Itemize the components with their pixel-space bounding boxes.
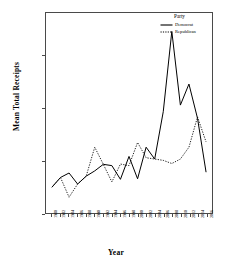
y-axis-title: Mean Total Receipts bbox=[12, 37, 21, 157]
x-tick-mark bbox=[181, 214, 182, 217]
chart-figure: Mean Total Receipts 0200,000400,000600,0… bbox=[0, 0, 232, 266]
x-tick-label: 2004 bbox=[157, 196, 162, 218]
x-tick-label: 1988 bbox=[87, 196, 92, 218]
legend-label-democrat: Democrat bbox=[175, 22, 193, 27]
x-tick-mark bbox=[207, 214, 208, 217]
x-tick-label: 2008 bbox=[174, 196, 179, 218]
plot-area bbox=[46, 13, 212, 213]
x-tick-label: 2014 bbox=[200, 196, 205, 218]
x-tick-label: 1990 bbox=[96, 196, 101, 218]
x-tick-mark bbox=[51, 214, 52, 217]
legend-key-solid-line bbox=[160, 22, 173, 28]
x-tick-label: 1986 bbox=[79, 196, 84, 218]
x-tick-mark bbox=[103, 214, 104, 217]
legend-item-republican: Republican bbox=[160, 28, 226, 35]
x-tick-label: 1998 bbox=[131, 196, 136, 218]
x-tick-label: 2010 bbox=[183, 196, 188, 218]
series-line-democrat bbox=[52, 31, 206, 187]
chart-legend: Party Democrat Republican bbox=[160, 13, 226, 35]
x-tick-label: 1984 bbox=[70, 196, 75, 218]
legend-label-republican: Republican bbox=[175, 29, 196, 34]
x-tick-label: 1994 bbox=[113, 196, 118, 218]
legend-key-dotted-line bbox=[160, 29, 173, 35]
x-tick-mark bbox=[129, 214, 130, 217]
x-tick-mark bbox=[77, 214, 78, 217]
x-axis-title: Year bbox=[0, 248, 232, 257]
x-tick-label: 2000 bbox=[139, 196, 144, 218]
x-tick-label: 1980 bbox=[53, 196, 58, 218]
x-tick-label: 2012 bbox=[191, 196, 196, 218]
x-tick-label: 2002 bbox=[148, 196, 153, 218]
x-tick-label: 2006 bbox=[165, 196, 170, 218]
legend-title: Party bbox=[174, 13, 226, 19]
x-tick-mark bbox=[155, 214, 156, 217]
x-tick-label: 2016 bbox=[209, 196, 214, 218]
plot-panel bbox=[45, 12, 213, 214]
y-tick-mark bbox=[42, 214, 45, 215]
x-tick-label: 1992 bbox=[105, 196, 110, 218]
legend-item-democrat: Democrat bbox=[160, 21, 226, 28]
x-tick-label: 1982 bbox=[61, 196, 66, 218]
x-tick-label: 1996 bbox=[122, 196, 127, 218]
